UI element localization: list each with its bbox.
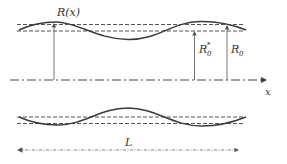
pipe-wall-diagram: R(x) R * 0 R 0 x L [0,0,287,164]
svg-text:0: 0 [207,50,212,58]
svg-text:R: R [230,43,239,56]
radius-star-label: R * 0 [198,41,212,58]
svg-text:0: 0 [239,50,244,58]
length-label: L [124,136,132,149]
radius-function-label: R(x) [56,6,80,19]
upper-wall [17,21,246,39]
svg-text:R: R [198,43,207,56]
lower-wall [17,108,246,126]
axis-x-label: x [265,86,271,97]
svg-text:*: * [207,41,211,49]
radius-r0-label: R 0 [230,43,244,58]
